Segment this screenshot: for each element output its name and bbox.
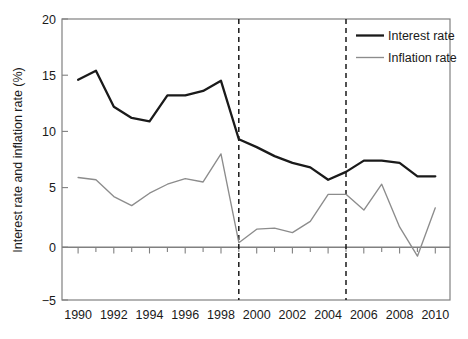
y-tick-minus5: −5 <box>42 294 56 308</box>
x-tick-2006: 2006 <box>350 308 378 322</box>
x-tick-1992: 1992 <box>100 308 128 322</box>
x-axis-labels: 1990 1992 1994 1996 1998 2000 2002 2004 … <box>64 308 449 322</box>
y-axis-title: Interest rate and inflation rate (%) <box>11 67 25 253</box>
x-tick-2004: 2004 <box>314 308 342 322</box>
x-tick-2010: 2010 <box>421 308 449 322</box>
x-tick-2000: 2000 <box>243 308 271 322</box>
y-tick-10: 10 <box>42 125 56 139</box>
line-chart: 20 15 10 5 0 −5 Interest rate and inflat… <box>0 0 468 339</box>
legend-label-inflation-rate: Inflation rate <box>388 51 457 65</box>
y-tick-20: 20 <box>42 13 56 27</box>
x-tick-1996: 1996 <box>171 308 199 322</box>
chart-container: 20 15 10 5 0 −5 Interest rate and inflat… <box>0 0 468 339</box>
y-tick-5: 5 <box>49 181 56 195</box>
x-tick-1994: 1994 <box>136 308 164 322</box>
x-tick-1990: 1990 <box>64 308 92 322</box>
x-tick-2008: 2008 <box>386 308 414 322</box>
x-tick-2002: 2002 <box>278 308 306 322</box>
x-tick-1998: 1998 <box>207 308 235 322</box>
y-tick-0: 0 <box>49 241 56 255</box>
y-tick-15: 15 <box>42 69 56 83</box>
legend-label-interest-rate: Interest rate <box>388 29 455 43</box>
